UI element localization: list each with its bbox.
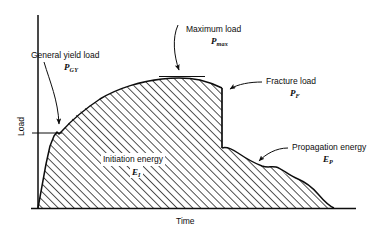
- maximum-load-label: Maximum load: [186, 24, 241, 35]
- initiation-energy-region: [38, 78, 222, 208]
- propagation-energy-symbol-subscript: P: [329, 158, 333, 165]
- propagation-energy-symbol: EP: [323, 154, 333, 164]
- propagation-energy-label: Propagation energy: [292, 142, 366, 153]
- general-yield-symbol-subscript: GY: [70, 66, 79, 73]
- load-time-diagram: [0, 0, 385, 236]
- maximum-load-symbol-subscript: max: [217, 40, 229, 47]
- general-yield-leader: [44, 62, 59, 124]
- maximum-load-symbol: Pmax: [211, 36, 228, 46]
- fracture-load-symbol-letter: P: [290, 88, 296, 98]
- general-yield-load-label: General yield load: [31, 50, 100, 61]
- fracture-load-symbol-subscript: F: [296, 92, 300, 99]
- propagation-energy-region: [222, 147, 334, 208]
- fracture-load-label: Fracture load: [266, 76, 316, 87]
- general-yield-load-symbol: PGY: [64, 62, 78, 72]
- initiation-energy-symbol: EI: [132, 167, 141, 177]
- maximum-load-leader: [174, 25, 179, 70]
- general-yield-symbol-letter: P: [64, 62, 70, 72]
- propagation-energy-leader: [259, 148, 288, 161]
- maximum-load-symbol-letter: P: [211, 36, 217, 46]
- fracture-load-symbol: PF: [290, 88, 300, 98]
- initiation-energy-label: Initiation energy: [103, 154, 163, 165]
- x-axis-title: Time: [176, 216, 195, 226]
- initiation-energy-symbol-subscript: I: [138, 171, 141, 178]
- fracture-load-leader: [230, 82, 262, 89]
- y-axis-title: Load: [16, 117, 26, 136]
